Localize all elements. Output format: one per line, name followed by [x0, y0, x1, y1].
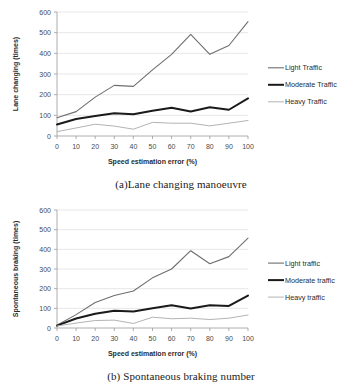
x-tick-label: 20	[91, 335, 99, 342]
x-tick-label: 10	[72, 335, 80, 342]
y-tick-label: 400	[39, 50, 51, 57]
x-tick-label: 0	[55, 143, 59, 150]
y-tick-label: 500	[39, 29, 51, 36]
x-tick-label: 100	[242, 335, 254, 342]
figure-caption-a: (a)Lane changing manoeuvre	[0, 178, 362, 191]
x-tick-label: 90	[225, 335, 233, 342]
chart-area-spontaneous-braking: 0100200300400500600010203040506070809010…	[0, 198, 362, 370]
y-tick-label: 200	[39, 285, 51, 292]
series-line-light-traffic	[57, 238, 248, 325]
x-tick-label: 50	[149, 335, 157, 342]
x-tick-label: 60	[168, 143, 176, 150]
x-tick-label: 50	[149, 143, 157, 150]
y-tick-label: 100	[39, 305, 51, 312]
plot-region: 0100200300400500600010203040506070809010…	[39, 9, 254, 150]
legend-label-heavy-traffic: Heavy Traffic	[285, 97, 327, 106]
y-tick-label: 300	[39, 71, 51, 78]
x-tick-label: 100	[242, 143, 254, 150]
x-axis-title: Speed estimation error (%)	[108, 350, 197, 358]
x-tick-label: 10	[72, 143, 80, 150]
x-tick-label: 30	[110, 335, 118, 342]
y-tick-label: 500	[39, 226, 51, 233]
y-tick-label: 600	[39, 207, 51, 214]
x-tick-label: 90	[225, 143, 233, 150]
figure-spontaneous-braking: 0100200300400500600010203040506070809010…	[0, 198, 362, 390]
y-tick-label: 0	[47, 133, 51, 140]
x-tick-label: 20	[91, 143, 99, 150]
plot-region: 0100200300400500600010203040506070809010…	[39, 207, 254, 342]
line-chart-lane-changing: 0100200300400500600010203040506070809010…	[0, 0, 362, 178]
x-tick-label: 0	[55, 335, 59, 342]
legend-label-moderate-traffic: Moderate Traffic	[285, 80, 337, 89]
y-tick-label: 200	[39, 91, 51, 98]
legend: Light TrafficModerate TrafficHeavy Traff…	[268, 63, 337, 106]
y-tick-label: 400	[39, 246, 51, 253]
legend-label-moderate-traffic: Moderate traffic	[285, 276, 335, 285]
figure-lane-changing: 0100200300400500600010203040506070809010…	[0, 0, 362, 198]
x-tick-label: 60	[168, 335, 176, 342]
x-tick-label: 40	[130, 335, 138, 342]
legend-label-heavy-traffic: Heavy traffic	[285, 293, 325, 302]
x-axis-title: Speed estimation error (%)	[108, 158, 197, 166]
legend-label-light-traffic: Light Traffic	[285, 63, 322, 72]
legend: Light trafficModerate trafficHeavy traff…	[268, 259, 335, 302]
legend-label-light-traffic: Light traffic	[285, 259, 320, 268]
y-axis-title: Lane changing (times)	[12, 37, 20, 111]
x-tick-label: 70	[187, 143, 195, 150]
series-line-moderate-traffic	[57, 98, 248, 124]
figure-caption-b: (b) Spontaneous braking number	[0, 370, 362, 383]
x-tick-label: 30	[110, 143, 118, 150]
line-chart-spontaneous-braking: 0100200300400500600010203040506070809010…	[0, 198, 362, 370]
y-tick-label: 300	[39, 266, 51, 273]
x-tick-label: 80	[206, 143, 214, 150]
series-line-light-traffic	[57, 22, 248, 118]
y-axis-title: Spontaneous braking (times)	[12, 221, 20, 317]
x-tick-label: 80	[206, 335, 214, 342]
series-line-moderate-traffic	[57, 296, 248, 326]
series-line-heavy-traffic	[57, 121, 248, 132]
x-tick-label: 70	[187, 335, 195, 342]
y-tick-label: 0	[47, 325, 51, 332]
y-tick-label: 100	[39, 112, 51, 119]
x-tick-label: 40	[130, 143, 138, 150]
chart-area-lane-changing: 0100200300400500600010203040506070809010…	[0, 0, 362, 178]
y-tick-label: 600	[39, 9, 51, 16]
